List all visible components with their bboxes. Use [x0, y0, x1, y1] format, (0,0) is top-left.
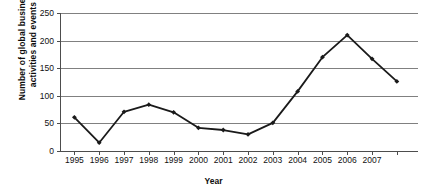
y-tick-label: 200	[20, 37, 54, 46]
x-tick-mark	[397, 151, 398, 155]
y-tick-mark	[57, 151, 61, 152]
y-tick-label: 50	[20, 119, 54, 128]
line-chart: Number of global business activities and…	[0, 0, 427, 195]
x-axis-line	[60, 151, 418, 152]
y-axis-title-line2: activities and events	[27, 0, 38, 120]
series-polyline	[74, 35, 396, 143]
data-series-line	[60, 13, 418, 151]
y-tick-label: 0	[20, 147, 54, 156]
data-point-marker	[146, 102, 151, 107]
y-tick-label: 150	[20, 64, 54, 73]
y-tick-label: 100	[20, 92, 54, 101]
x-tick-label: 2007	[352, 156, 392, 165]
y-tick-label: 250	[20, 9, 54, 18]
plot-area	[60, 13, 418, 151]
data-point-marker	[221, 128, 226, 133]
x-axis-title: Year	[0, 176, 427, 186]
y-axis-title: Number of global business activities and…	[17, 0, 38, 120]
